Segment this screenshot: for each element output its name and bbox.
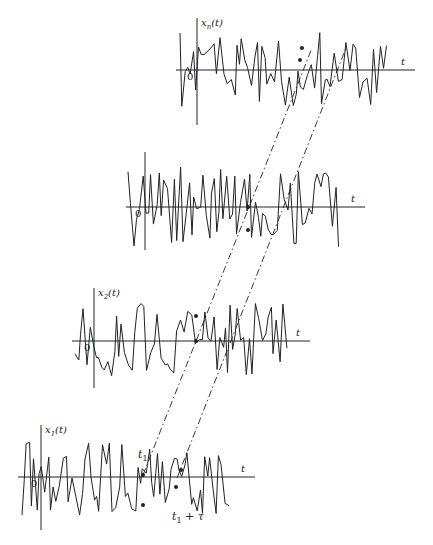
waveform-placeholder (75, 304, 287, 376)
waveform-placeholder (180, 33, 387, 107)
sample-point (141, 503, 145, 507)
t1-label: t1 (138, 448, 148, 463)
origin-label: 0 (135, 208, 141, 219)
sample-point (141, 473, 145, 477)
t-axis-label: t (401, 56, 406, 67)
panel-x2: 0tx2(t) (72, 287, 310, 388)
sample-markers (141, 46, 304, 507)
t1-line (143, 48, 312, 475)
sample-point (194, 339, 198, 343)
panels: 0txn(t)0t0tx2(t)0tx1(t) (18, 17, 415, 530)
sample-point (300, 46, 304, 50)
sample-point (174, 485, 178, 489)
sample-point (194, 314, 198, 318)
panel-xn: 0txn(t) (176, 17, 415, 125)
t1-tau-line (177, 48, 346, 478)
origin-label: 0 (84, 342, 90, 353)
sample-point (179, 468, 183, 472)
t-axis-label: t (351, 193, 356, 204)
sample-point (298, 58, 302, 62)
waveform-placeholder (22, 442, 229, 515)
panel-x3: 0t (126, 152, 365, 250)
function-label: xn(t) (201, 17, 223, 31)
sample-point (246, 228, 250, 232)
dashed-correlation-lines (143, 48, 346, 478)
panel-x1: 0tx1(t) (18, 424, 255, 530)
function-label: x2(t) (98, 287, 120, 301)
t-axis-label: t (296, 327, 301, 338)
function-label: x1(t) (45, 424, 67, 438)
sample-point (246, 205, 250, 209)
t1-plus-tau-label: t1 + τ (172, 510, 205, 525)
t-axis-label: t (241, 463, 246, 474)
origin-label: 0 (187, 71, 193, 82)
origin-label: 0 (31, 478, 37, 489)
ensemble-diagram: 0txn(t)0t0tx2(t)0tx1(t) t1 t1 + τ (0, 0, 433, 545)
